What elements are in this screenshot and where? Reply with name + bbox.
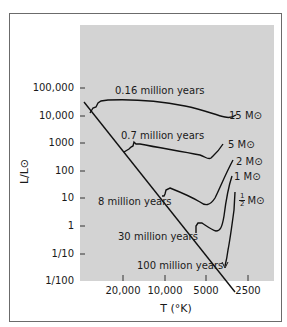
y-tick-10000: 10,000: [39, 111, 74, 121]
label-15-msun: 15 M⊙: [229, 111, 262, 121]
label-2-msun: 2 M⊙: [236, 157, 263, 167]
annotation-100-million-years: 100 million years: [137, 261, 223, 271]
annotation-30-million-years: 30 million years: [118, 232, 198, 242]
annotation-0-16-million-years: 0.16 million years: [115, 86, 204, 96]
y-axis-label: L/L⊙: [18, 159, 31, 184]
y-tick-10: 10: [61, 193, 74, 203]
annotation-8-million-years: 8 million years: [98, 197, 172, 207]
y-tick-marks: [80, 88, 85, 254]
y-tick-1-10: 1/10: [52, 249, 74, 259]
y-tick-1: 1: [68, 221, 74, 231]
y-tick-1000: 1000: [49, 138, 74, 148]
track-2-msun: [162, 160, 233, 205]
track-15-msun: [90, 100, 236, 118]
x-tick-20000: 20,000: [106, 286, 141, 296]
label-1-msun: 1 M⊙: [234, 172, 261, 182]
y-tick-100: 100: [55, 166, 74, 176]
label-half-msun: 1 2 M⊙: [239, 193, 264, 208]
annotation-0-7-million-years: 0.7 million years: [121, 131, 204, 141]
x-tick-marks: [123, 275, 248, 281]
y-tick-1-100: 1/100: [45, 276, 74, 286]
fraction-one-half: 1 2: [239, 193, 245, 208]
x-tick-2500: 2500: [235, 286, 260, 296]
x-axis-label: T (°K): [160, 302, 192, 315]
y-tick-100000: 100,000: [33, 83, 74, 93]
track-1-msun: [196, 176, 232, 233]
label-5-msun: 5 M⊙: [228, 140, 255, 150]
track-5-msun: [124, 142, 223, 159]
x-tick-5000: 5000: [193, 286, 218, 296]
x-tick-10000: 10,000: [148, 286, 183, 296]
